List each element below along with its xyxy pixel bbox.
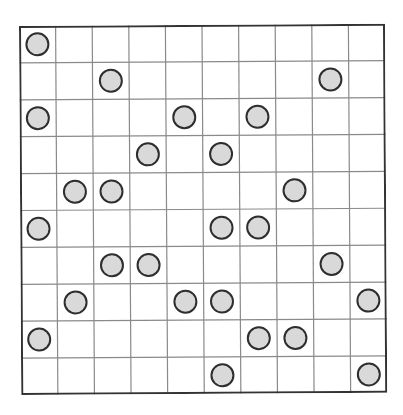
grid-cell[interactable]: [130, 283, 167, 320]
grid-cell[interactable]: [275, 24, 312, 61]
grid-cell[interactable]: [129, 25, 166, 62]
grid-cell[interactable]: [239, 135, 276, 172]
grid-cell[interactable]: [202, 62, 239, 99]
grid-cell[interactable]: [350, 245, 387, 282]
grid-cell[interactable]: [130, 173, 167, 210]
grid-cell[interactable]: [350, 319, 387, 356]
circle-piece-icon[interactable]: [174, 291, 196, 313]
grid-cell[interactable]: [349, 171, 386, 208]
circle-piece-icon[interactable]: [246, 106, 268, 128]
grid-cell[interactable]: [348, 24, 385, 61]
grid-cell[interactable]: [276, 98, 313, 135]
grid-cell[interactable]: [349, 61, 386, 98]
grid-cell[interactable]: [203, 246, 240, 283]
circle-piece-icon[interactable]: [27, 107, 49, 129]
grid-cell[interactable]: [349, 134, 386, 171]
grid-cell[interactable]: [93, 136, 130, 173]
grid-cell[interactable]: [204, 320, 241, 357]
circle-piece-icon[interactable]: [137, 143, 159, 165]
circle-piece-icon[interactable]: [65, 291, 87, 313]
circle-piece-icon[interactable]: [100, 70, 122, 92]
circle-piece-icon[interactable]: [211, 290, 233, 312]
grid-cell[interactable]: [129, 99, 166, 136]
circle-piece-icon[interactable]: [27, 218, 49, 240]
grid-cell[interactable]: [203, 172, 240, 209]
grid-cell[interactable]: [277, 246, 314, 283]
grid-cell[interactable]: [56, 26, 93, 63]
grid-cell[interactable]: [131, 320, 168, 357]
grid-cell[interactable]: [165, 25, 202, 62]
grid-cell[interactable]: [240, 283, 277, 320]
grid-cell[interactable]: [312, 135, 349, 172]
circle-piece-icon[interactable]: [28, 328, 50, 350]
grid-cell[interactable]: [167, 209, 204, 246]
grid-cell[interactable]: [19, 63, 56, 100]
grid-cell[interactable]: [276, 135, 313, 172]
circle-piece-icon[interactable]: [358, 363, 380, 385]
circle-piece-icon[interactable]: [210, 217, 232, 239]
circle-piece-icon[interactable]: [210, 143, 232, 165]
grid-cell[interactable]: [275, 61, 312, 98]
grid-cell[interactable]: [167, 357, 204, 394]
grid-cell[interactable]: [94, 284, 131, 321]
grid-cell[interactable]: [21, 358, 58, 395]
grid-cell[interactable]: [202, 25, 239, 62]
circle-piece-icon[interactable]: [284, 327, 306, 349]
grid-cell[interactable]: [93, 210, 130, 247]
circle-piece-icon[interactable]: [64, 181, 86, 203]
grid-cell[interactable]: [276, 209, 313, 246]
grid-cell[interactable]: [314, 356, 351, 393]
grid-cell[interactable]: [21, 284, 58, 321]
grid-cell[interactable]: [349, 98, 386, 135]
grid-cell[interactable]: [202, 98, 239, 135]
grid-cell[interactable]: [277, 356, 314, 393]
grid-cell[interactable]: [240, 246, 277, 283]
grid-cell[interactable]: [56, 62, 93, 99]
grid-cell[interactable]: [93, 99, 130, 136]
circle-piece-icon[interactable]: [173, 106, 195, 128]
circle-piece-icon[interactable]: [283, 179, 305, 201]
grid-cell[interactable]: [241, 357, 278, 394]
grid-cell[interactable]: [20, 136, 57, 173]
grid-cell[interactable]: [313, 282, 350, 319]
grid-cell[interactable]: [130, 210, 167, 247]
grid-cell[interactable]: [129, 62, 166, 99]
grid-cell[interactable]: [58, 358, 95, 395]
grid-cell[interactable]: [57, 321, 94, 358]
grid-cell[interactable]: [167, 246, 204, 283]
grid-cell[interactable]: [239, 61, 276, 98]
grid-cell[interactable]: [277, 283, 314, 320]
circle-piece-icon[interactable]: [320, 253, 342, 275]
grid-cell[interactable]: [94, 321, 131, 358]
grid-cell[interactable]: [131, 357, 168, 394]
grid-cell[interactable]: [350, 208, 387, 245]
grid-cell[interactable]: [56, 136, 93, 173]
circle-piece-icon[interactable]: [247, 216, 269, 238]
grid-cell[interactable]: [313, 208, 350, 245]
grid-cell[interactable]: [56, 99, 93, 136]
circle-piece-icon[interactable]: [357, 290, 379, 312]
grid-cell[interactable]: [167, 320, 204, 357]
grid-cell[interactable]: [57, 210, 94, 247]
grid-cell[interactable]: [57, 247, 94, 284]
grid-cell[interactable]: [94, 357, 131, 394]
circle-piece-icon[interactable]: [319, 68, 341, 90]
grid-cell[interactable]: [314, 319, 351, 356]
grid-cell[interactable]: [312, 98, 349, 135]
grid-cell[interactable]: [92, 25, 129, 62]
grid-cell[interactable]: [166, 136, 203, 173]
circle-piece-icon[interactable]: [100, 180, 122, 202]
grid-cell[interactable]: [20, 247, 57, 284]
grid-cell[interactable]: [312, 24, 349, 61]
grid-cell[interactable]: [313, 172, 350, 209]
grid-cell[interactable]: [20, 173, 57, 210]
grid-cell[interactable]: [166, 172, 203, 209]
circle-piece-icon[interactable]: [211, 364, 233, 386]
grid-cell[interactable]: [166, 62, 203, 99]
circle-piece-icon[interactable]: [101, 254, 123, 276]
circle-piece-icon[interactable]: [137, 254, 159, 276]
grid-cell[interactable]: [239, 24, 276, 61]
grid-cell[interactable]: [239, 172, 276, 209]
circle-piece-icon[interactable]: [248, 327, 270, 349]
circle-piece-icon[interactable]: [26, 33, 48, 55]
